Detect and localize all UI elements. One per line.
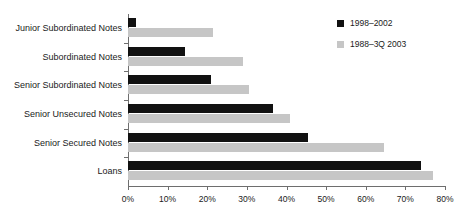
x-axis-tick-label: 80% — [436, 194, 453, 204]
bar-series-1 — [128, 47, 185, 56]
x-axis-tick-label: 50% — [318, 194, 335, 204]
x-axis-tick — [168, 186, 169, 190]
bar-series-1 — [128, 133, 308, 142]
category-label: Senior Subordinated Notes — [2, 80, 122, 90]
category-label: Senior Secured Notes — [2, 138, 122, 148]
bar-chart: 0%10%20%30%40%50%60%70%80% Junior Subord… — [0, 0, 455, 220]
x-axis-tick — [128, 186, 129, 190]
legend-swatch-icon — [337, 41, 344, 48]
y-axis-tick — [124, 129, 128, 130]
legend-label: 1998–2002 — [350, 18, 393, 28]
legend-label: 1988–3Q 2003 — [350, 39, 406, 49]
bar-series-2 — [128, 171, 433, 180]
x-axis-tick — [287, 186, 288, 190]
bar-series-1 — [128, 75, 211, 84]
category-label: Loans — [2, 166, 122, 176]
x-axis-tick-label: 20% — [199, 194, 216, 204]
bar-series-2 — [128, 143, 384, 152]
bar-series-1 — [128, 104, 273, 113]
x-axis-tick — [405, 186, 406, 190]
bar-group: Senior Secured Notes — [128, 133, 445, 158]
x-axis-tick-label: 10% — [159, 194, 176, 204]
bar-series-2 — [128, 114, 290, 123]
x-axis-tick-label: 40% — [278, 194, 295, 204]
chart-legend: 1998–20021988–3Q 2003 — [337, 18, 406, 60]
x-axis-tick — [445, 186, 446, 190]
x-axis-tick — [247, 186, 248, 190]
y-axis-tick — [124, 43, 128, 44]
category-label: Junior Subordinated Notes — [2, 23, 122, 33]
x-axis-tick — [326, 186, 327, 190]
bar-group: Senior Subordinated Notes — [128, 75, 445, 100]
bar-group: Senior Unsecured Notes — [128, 104, 445, 129]
bar-series-1 — [128, 18, 136, 27]
legend-item[interactable]: 1988–3Q 2003 — [337, 39, 406, 49]
x-axis-tick — [207, 186, 208, 190]
x-axis-tick-label: 30% — [238, 194, 255, 204]
bar-group: Loans — [128, 161, 445, 186]
category-label: Subordinated Notes — [2, 52, 122, 62]
x-axis-tick — [366, 186, 367, 190]
legend-swatch-icon — [337, 20, 344, 27]
category-label: Senior Unsecured Notes — [2, 109, 122, 119]
legend-item[interactable]: 1998–2002 — [337, 18, 406, 28]
bar-series-2 — [128, 57, 243, 66]
x-axis-tick-label: 70% — [397, 194, 414, 204]
y-axis-tick — [124, 100, 128, 101]
bar-series-2 — [128, 85, 249, 94]
x-axis-tick-label: 0% — [122, 194, 134, 204]
bar-series-2 — [128, 28, 213, 37]
x-axis-tick-label: 60% — [357, 194, 374, 204]
bar-series-1 — [128, 161, 421, 170]
